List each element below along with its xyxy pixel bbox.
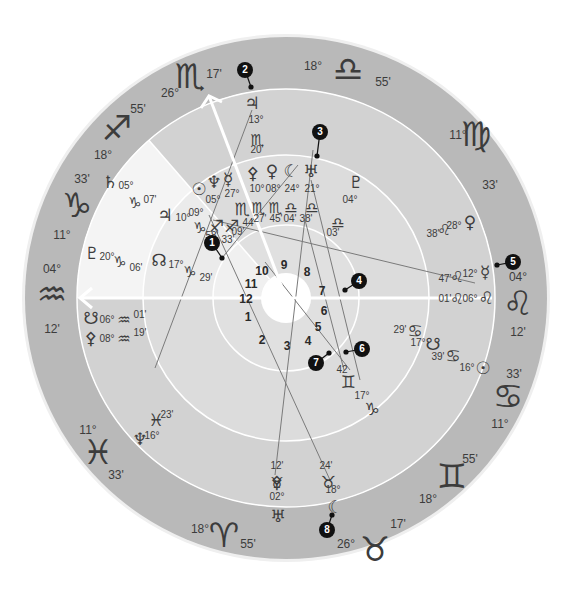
vesta-top-icon: ⚴︎ xyxy=(247,163,259,183)
sign-degree: 18° xyxy=(94,148,112,162)
libra-icon: ♎︎ xyxy=(333,49,363,89)
taurus-icon: ♉︎ xyxy=(360,529,390,569)
marker-dot xyxy=(314,153,319,158)
marker-dot xyxy=(219,255,224,260)
marker-dot xyxy=(329,512,334,517)
house-number-11: 11 xyxy=(245,277,258,291)
position-label: 29' xyxy=(199,272,212,283)
position-label: 42 xyxy=(336,364,348,375)
astrology-natal-chart: ♒︎04°12'♑︎11°33'♐︎18°55'♏︎26°17'♎︎18°55'… xyxy=(0,0,572,597)
position-label: 17° xyxy=(354,390,369,401)
position-label: 23' xyxy=(160,409,173,420)
house-number-3: 3 xyxy=(284,339,291,353)
leo-icon: ♌︎ xyxy=(503,283,533,323)
pluto-upper-right-icon: ♇︎ xyxy=(348,172,363,192)
sagittarius-icon: ♐︎ xyxy=(102,108,132,148)
sign-degree: 04° xyxy=(43,262,61,276)
marker-number: 2 xyxy=(242,64,248,75)
position-label: 03' xyxy=(326,227,339,238)
jupiter-left-icon: ♃︎ xyxy=(157,205,172,225)
position-label: 05° xyxy=(205,194,220,205)
position-label: 21° xyxy=(304,183,319,194)
position-label: 07' xyxy=(143,194,156,205)
uranus-top-icon: ♅︎ xyxy=(303,161,318,181)
house-number-6: 6 xyxy=(321,304,328,318)
position-label: 16° xyxy=(144,430,159,441)
position-label: 09° xyxy=(188,207,203,218)
cancer-right-2-icon: ♋︎ xyxy=(445,346,460,366)
marker-number: 6 xyxy=(359,343,365,354)
house-number-12: 12 xyxy=(239,292,253,306)
house-number-1: 1 xyxy=(245,310,252,324)
leo-right-icon: ♌︎ xyxy=(478,288,493,308)
house-number-7: 7 xyxy=(319,284,326,298)
house-number-9: 9 xyxy=(281,258,288,272)
position-label: 13° xyxy=(248,114,263,125)
sun-right-icon: ☉︎ xyxy=(475,358,490,378)
sign-degree: 11° xyxy=(79,423,96,437)
position-label: 08° xyxy=(99,333,114,344)
marker-dot xyxy=(494,262,499,267)
jupiter-top-icon: ♃︎ xyxy=(244,93,259,113)
position-label: 04' xyxy=(283,213,296,224)
position-label: 01' xyxy=(133,309,146,320)
planet-vesta-bottom: ⚴︎12'♉︎02° xyxy=(269,460,284,502)
sign-degree: 11° xyxy=(491,417,508,431)
sun-upper-left-icon: ☉︎ xyxy=(191,179,206,199)
pisces-icon: ♓︎ xyxy=(83,432,113,472)
marker-dot xyxy=(326,350,331,355)
sign-minutes: 12' xyxy=(44,322,60,336)
sign-degree: 04° xyxy=(509,270,527,284)
moon-top-icon: ☾︎ xyxy=(283,161,298,181)
pluto-left-icon: ♇︎ xyxy=(84,243,99,263)
house-number-10: 10 xyxy=(255,264,269,278)
marker-dot xyxy=(343,349,348,354)
sign-minutes: 55' xyxy=(462,452,478,466)
position-label: 17° xyxy=(410,337,425,348)
position-label: 12' xyxy=(270,460,283,471)
position-label: 12° xyxy=(462,268,477,279)
position-label: 06° xyxy=(99,314,114,325)
sign-degree: 18° xyxy=(419,492,437,506)
marker-dot xyxy=(248,84,253,89)
marker-number: 8 xyxy=(324,524,330,535)
sign-minutes: 17' xyxy=(206,67,222,81)
marker-dot xyxy=(342,287,347,292)
sign-minutes: 55' xyxy=(130,102,146,116)
planet-uranus-bottom: ♅︎ xyxy=(270,506,285,526)
aries-icon: ♈︎ xyxy=(209,515,239,555)
position-label: 04° xyxy=(342,194,357,205)
sign-glyph-icon: ♒︎ xyxy=(117,330,130,348)
sign-degree: 11° xyxy=(53,228,70,242)
sign-glyph-icon: ♒︎ xyxy=(117,311,130,329)
position-label: 24' xyxy=(319,460,332,471)
venus-right-icon: ♀︎ xyxy=(464,212,476,232)
aquarius-icon: ♒︎ xyxy=(37,274,67,314)
gemini-center-icon: ♊︎ xyxy=(340,372,355,392)
position-label: 10° xyxy=(175,212,190,223)
position-label: 10° xyxy=(249,183,264,194)
position-label: 29' xyxy=(393,324,406,335)
position-label: 05° xyxy=(118,180,133,191)
position-label: 18° xyxy=(325,484,340,495)
planet-moon-top: ☾︎24°♎︎04' xyxy=(283,161,299,224)
mercury-right-icon: ☿︎ xyxy=(480,262,490,282)
sign-degree: 26° xyxy=(161,86,179,100)
sign-degree: 18° xyxy=(191,522,209,536)
scorpio-icon: ♏︎ xyxy=(175,56,205,96)
position-label: 38' xyxy=(426,228,439,239)
sign-minutes: 33' xyxy=(74,172,90,186)
position-label: 02° xyxy=(269,491,284,502)
marker-number: 5 xyxy=(510,256,516,267)
position-label: 20' xyxy=(250,144,263,155)
sign-glyph-icon: ♉︎ xyxy=(270,474,283,492)
sign-glyph-icon: ♑︎ xyxy=(183,263,196,281)
south-node-left-icon: ☋︎ xyxy=(83,308,98,328)
sign-minutes: 33' xyxy=(108,468,124,482)
position-label: 33' xyxy=(221,234,234,245)
position-label: 45' xyxy=(269,213,282,224)
marker-number: 7 xyxy=(313,357,319,368)
position-label: 38' xyxy=(299,213,312,224)
position-label: 27° xyxy=(224,188,239,199)
sign-degree: 18° xyxy=(304,59,322,73)
